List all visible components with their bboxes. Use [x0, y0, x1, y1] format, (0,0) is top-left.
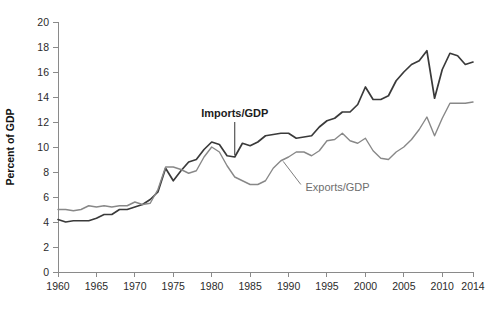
series-annotations: Imports/GDPExports/GDP	[201, 107, 370, 193]
x-tick-label: 2000	[354, 280, 378, 292]
x-tick-label: 1960	[46, 280, 70, 292]
series-lines	[58, 51, 473, 222]
x-tick-label: 1975	[162, 280, 186, 292]
y-tick-label: 10	[37, 141, 49, 153]
x-tick-label: 1970	[123, 280, 147, 292]
y-tick-label: 12	[37, 116, 49, 128]
x-tick-label: 1995	[315, 280, 339, 292]
series-line-imports-gdp	[58, 51, 473, 222]
y-tick-label: 2	[43, 241, 49, 253]
x-tick-label: 1985	[238, 280, 262, 292]
x-tick-label: 2010	[431, 280, 455, 292]
y-tick-label: 6	[43, 191, 49, 203]
y-tick-label: 0	[43, 266, 49, 278]
x-axis: 1960196519701975198019851990199520002005…	[46, 272, 485, 292]
y-axis: 02468101214161820	[37, 16, 58, 278]
y-tick-label: 20	[37, 16, 49, 28]
y-tick-label: 18	[37, 41, 49, 53]
y-tick-label: 16	[37, 66, 49, 78]
y-axis-title: Percent of GDP	[4, 108, 16, 185]
annotation-label: Exports/GDP	[305, 181, 369, 193]
x-tick-label: 1990	[277, 280, 301, 292]
y-tick-label: 4	[43, 216, 49, 228]
chart-figure: 02468101214161820 1960196519701975198019…	[0, 0, 498, 309]
annotation-leader-line	[283, 161, 301, 184]
x-tick-label: 2014	[461, 280, 485, 292]
x-tick-label: 1980	[200, 280, 224, 292]
annotation-label: Imports/GDP	[201, 107, 268, 119]
y-tick-label: 8	[43, 166, 49, 178]
x-tick-label: 2005	[392, 280, 416, 292]
x-tick-label: 1965	[85, 280, 109, 292]
y-tick-label: 14	[37, 91, 49, 103]
line-chart: 02468101214161820 1960196519701975198019…	[0, 0, 498, 309]
